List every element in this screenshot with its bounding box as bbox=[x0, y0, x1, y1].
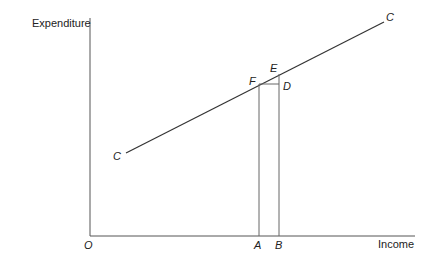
point-f-label: F bbox=[249, 75, 256, 87]
point-a-label: A bbox=[254, 239, 261, 251]
consumption-line-cc bbox=[126, 22, 384, 153]
y-axis-label: Expenditure bbox=[32, 17, 91, 29]
point-e-label: E bbox=[270, 62, 277, 74]
x-axis-label: Income bbox=[378, 238, 414, 250]
point-b-label: B bbox=[275, 239, 282, 251]
origin-label: O bbox=[84, 239, 93, 251]
diagram-canvas bbox=[0, 0, 439, 264]
curve-label-start: C bbox=[113, 150, 121, 162]
curve-label-end: C bbox=[386, 11, 394, 23]
point-d-label: D bbox=[283, 80, 291, 92]
